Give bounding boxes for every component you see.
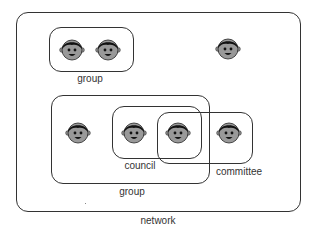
stray-dot <box>85 203 86 204</box>
council-label: council <box>124 160 155 171</box>
person-face-icon <box>59 36 85 62</box>
person-face-icon <box>65 119 91 145</box>
person-face-icon <box>216 119 242 145</box>
group-label-1: group <box>77 73 103 84</box>
committee-label: committee <box>216 166 262 177</box>
group-label-2: group <box>119 186 145 197</box>
person-face-icon <box>165 119 191 145</box>
person-face-icon <box>95 36 121 62</box>
person-face-icon <box>121 119 147 145</box>
network-label: network <box>140 215 175 226</box>
person-face-icon <box>215 35 241 61</box>
